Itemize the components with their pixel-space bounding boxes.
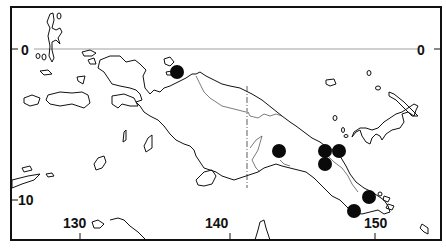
lat-label-right-0: 0 [417, 42, 425, 58]
cape-york [110, 218, 146, 240]
halmahera-island [47, 13, 62, 62]
lon-label-140: 140 [205, 215, 229, 231]
frederik-hendrik-island [196, 170, 216, 186]
tanimbar-islands [94, 156, 106, 170]
lat-label-left-10: 10 [18, 192, 34, 208]
province-border [248, 112, 282, 118]
occurrence-markers [170, 65, 376, 218]
province-border [196, 76, 246, 112]
australia-coast [255, 220, 270, 240]
islet [376, 86, 381, 90]
occurrence-6-marker [362, 190, 376, 204]
islet [333, 116, 337, 121]
islet [57, 13, 61, 19]
distribution-map: 0 0 10 130 140 150 [0, 0, 446, 248]
arnhem-land [92, 220, 104, 228]
occurrence-5-marker [318, 157, 332, 171]
kai-islands [123, 130, 126, 142]
islet [342, 128, 345, 133]
occurrence-1-marker [170, 65, 184, 79]
seram-island [46, 92, 90, 108]
lon-label-150: 150 [364, 215, 388, 231]
islet [42, 54, 46, 60]
occurrence-7-marker [347, 204, 361, 218]
occurrence-4-marker [332, 144, 346, 158]
bomberai-peninsula [112, 94, 138, 108]
island [46, 173, 54, 177]
islet [367, 71, 371, 76]
island [82, 50, 96, 56]
timor-island [12, 174, 40, 188]
buru-island [24, 95, 40, 106]
island [40, 70, 52, 75]
province-border [250, 136, 262, 172]
islet [378, 192, 382, 196]
islet [36, 54, 40, 59]
island [164, 57, 174, 66]
map-frame [11, 7, 441, 240]
lat-label-left-0: 0 [21, 42, 29, 58]
island [77, 76, 85, 84]
island [420, 224, 428, 234]
occurrence-2-marker [272, 144, 286, 158]
manus-island [326, 79, 336, 86]
island [22, 166, 32, 172]
aru-islands [144, 135, 152, 152]
island [386, 204, 394, 210]
islet [344, 135, 348, 138]
island [383, 196, 390, 202]
island [88, 58, 96, 64]
new-britain [352, 104, 418, 144]
province-border [280, 160, 290, 166]
occurrence-3-marker [318, 144, 332, 158]
lon-label-130: 130 [63, 215, 87, 231]
